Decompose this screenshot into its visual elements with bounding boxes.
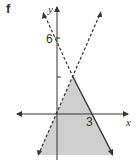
x-tick-label-3: 3	[86, 115, 93, 129]
shaded-region	[38, 77, 113, 155]
line-6-minus-2x-dashed	[45, 16, 73, 77]
graph-canvas	[0, 0, 139, 163]
y-tick-label-6: 6	[46, 32, 53, 46]
arrowhead-2x-top	[97, 11, 102, 17]
y-axis-label: y	[48, 3, 53, 15]
x-axis-label: x	[126, 116, 131, 128]
